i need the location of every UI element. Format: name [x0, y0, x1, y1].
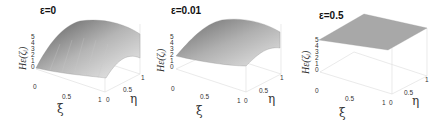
y-tick: 1: [141, 74, 145, 81]
panel-title: ε=0.01: [171, 5, 201, 16]
panel-title: ε=0.5: [319, 10, 344, 21]
panel-title: ε=0: [40, 5, 56, 16]
y-tick: 0: [244, 97, 248, 104]
x-tick: 1: [98, 96, 102, 103]
panel-eps-0: ε=0 Hε(ζᵢ) 5 4 3 2 1 0 0 0.5 1 0 0.5 1 ξ…: [0, 0, 146, 124]
x-tick: 0.5: [62, 93, 71, 100]
x-tick: 0.5: [200, 93, 209, 100]
z-axis-label: Hε(ζᵢ): [17, 47, 28, 70]
panel-eps-0.01: ε=0.01 Hε(ζᵢ) 5 4 3 2 1 0 0 0.5 1 0 0.5 …: [146, 0, 292, 124]
y-tick: 0.5: [259, 87, 268, 94]
z-axis-label: Hε(ζᵢ): [155, 49, 166, 72]
x-tick: 0: [315, 87, 319, 94]
y-axis-label: η: [130, 92, 137, 106]
y-tick: 1: [280, 74, 284, 81]
x-axis-label: ξ: [57, 102, 64, 116]
y-tick: 1: [425, 76, 429, 83]
y-tick: 0: [389, 99, 393, 106]
x-tick: 1: [237, 97, 241, 104]
x-tick: 0.5: [345, 95, 354, 102]
y-axis-label: η: [412, 94, 419, 108]
x-tick: 1: [382, 99, 386, 106]
x-axis-label: ξ: [196, 104, 203, 118]
x-tick: 0: [171, 85, 175, 92]
z-axis-label: Hε(ζᵢ): [300, 51, 311, 74]
x-tick: 0: [33, 83, 37, 90]
x-axis-label: ξ: [339, 106, 346, 120]
y-tick: 0: [106, 96, 110, 103]
panel-eps-0.5: ε=0.5 Hε(ζᵢ) 5 4 3 2 1 0 0 0.5 1 0 0.5 1…: [292, 0, 438, 124]
y-axis-label: η: [268, 92, 275, 106]
